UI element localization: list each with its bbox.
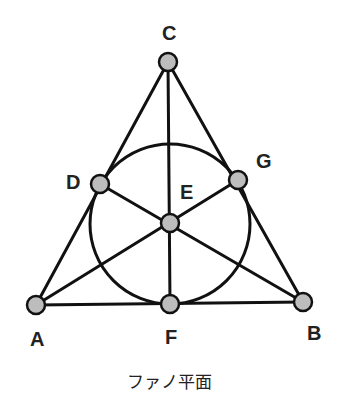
line-AEG xyxy=(36,180,238,305)
point-A xyxy=(27,296,45,314)
point-D xyxy=(91,175,109,193)
point-E xyxy=(161,214,179,232)
label-F: F xyxy=(165,326,177,348)
label-D: D xyxy=(66,171,80,193)
diagram-caption: ファノ平面 xyxy=(0,368,338,393)
label-B: B xyxy=(307,322,321,344)
fano-plane-diagram: C D G E A F B xyxy=(0,0,338,413)
line-CEF xyxy=(168,62,170,304)
point-F xyxy=(161,295,179,313)
point-B xyxy=(294,293,312,311)
label-C: C xyxy=(162,22,176,44)
label-E: E xyxy=(180,181,193,203)
label-A: A xyxy=(30,328,44,350)
label-G: G xyxy=(256,150,272,172)
point-G xyxy=(229,171,247,189)
point-C xyxy=(159,53,177,71)
